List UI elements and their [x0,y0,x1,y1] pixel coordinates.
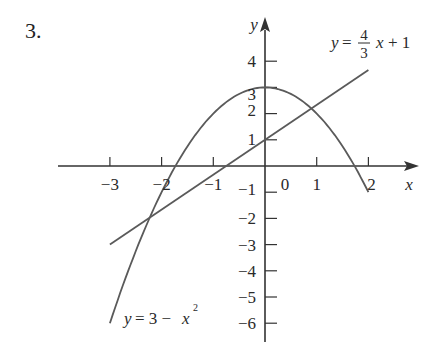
parabola-equation-label: y= 3 −x2 [122,302,198,328]
x-tick-label: 1 [312,175,321,194]
label-suffix: + 1 [388,33,410,52]
y-tick-label: −2 [238,209,256,228]
label-den: 3 [360,45,368,61]
x-tick-label: −1 [204,175,222,194]
label-prefix: y [329,33,339,52]
line-equation-label: y=43x+ 1 [329,27,410,61]
y-tick-label: −6 [238,314,256,333]
y-axis-arrow-icon [260,17,270,32]
y-tick-label: −4 [238,262,257,281]
x-axis-label: x [404,175,413,194]
y-tick-label: −5 [238,288,256,307]
label-y: y [122,309,132,328]
chart: −3−2−10124321−1−2−3−4−5−6xyy=43x+ 1y= 3 … [0,0,446,355]
axis-labels: −3−2−10124321−1−2−3−4−5−6xyy=43x+ 1y= 3 … [101,15,413,333]
label-x: x [181,309,190,328]
label-eq: = [342,33,352,52]
y-tick-label: 4 [248,52,257,71]
x-tick-label: 2 [367,175,376,194]
x-tick-label: −2 [153,175,171,194]
y-tick-label: 2 [248,101,257,120]
y-tick-label: −1 [238,180,256,199]
y-tick-label: 1 [248,130,257,149]
label-num: 4 [360,27,368,43]
x-tick-label: 0 [281,175,290,194]
label-x: x [375,33,384,52]
y-tick-label: −3 [238,236,256,255]
label-body: = 3 − [135,309,171,328]
label-sup: 2 [193,302,198,313]
y-axis-label: y [248,15,258,34]
x-tick-label: −3 [101,175,119,194]
